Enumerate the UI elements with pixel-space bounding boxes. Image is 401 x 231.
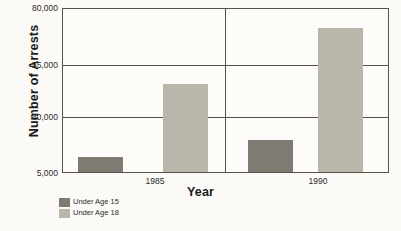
- bar-1985-under-age-15: [78, 157, 123, 172]
- bar-chart: Number of Arrests 80,000 55,000 30,000 5…: [0, 0, 401, 231]
- legend-swatch-icon-under-age-18: [59, 209, 70, 218]
- bar-1990-under-age-18: [318, 28, 363, 172]
- legend-item-under-age-18: Under Age 18: [59, 208, 119, 218]
- bar-1985-under-age-18: [163, 84, 208, 172]
- plot-area: [62, 8, 389, 173]
- legend-item-under-age-15: Under Age 15: [59, 197, 119, 207]
- legend-label-under-age-15: Under Age 15: [73, 198, 119, 206]
- y-tick-label-30000: 30,000: [12, 113, 58, 122]
- legend-label-under-age-18: Under Age 18: [73, 209, 119, 217]
- y-tick-label-5000: 5,000: [12, 169, 58, 178]
- legend-swatch-icon-under-age-15: [59, 198, 70, 207]
- bar-1990-under-age-15: [248, 140, 293, 172]
- group-divider: [225, 9, 226, 172]
- y-tick-label-80000: 80,000: [12, 4, 58, 13]
- legend: Under Age 15 Under Age 18: [59, 197, 119, 219]
- y-tick-label-55000: 55,000: [12, 61, 58, 70]
